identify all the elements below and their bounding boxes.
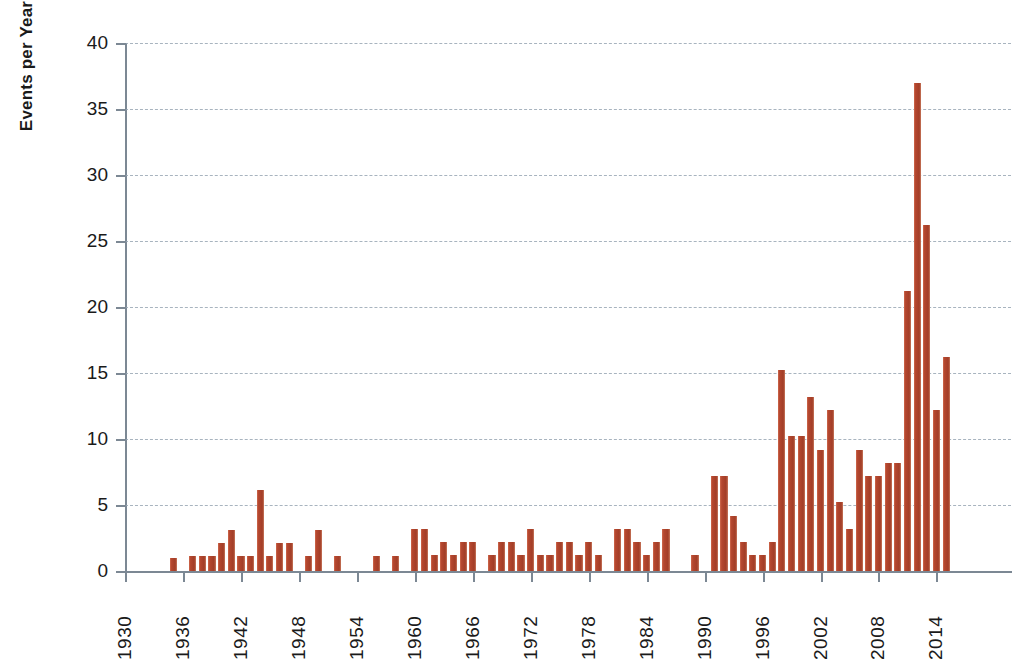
x-tick-mark-1948 [299, 571, 301, 582]
bar-1995 [749, 555, 756, 571]
x-tick-label-1936: 1936 [172, 590, 198, 660]
bar-2015 [943, 357, 950, 571]
x-tick-mark-1978 [589, 571, 591, 582]
bar-1989 [691, 555, 698, 571]
bar-1946 [276, 543, 283, 571]
bar-1945 [266, 556, 273, 571]
bar-1998 [778, 370, 785, 571]
y-tick-label-10: 10 [60, 429, 108, 448]
bar-1956 [373, 556, 380, 571]
bar-1968 [488, 555, 495, 571]
bar-1960 [411, 529, 418, 571]
bar-2013 [923, 225, 930, 571]
bar-1972 [527, 529, 534, 571]
bar-1979 [595, 555, 602, 571]
bar-1942 [237, 556, 244, 571]
y-tick-label-40: 40 [60, 33, 108, 52]
bar-1938 [199, 556, 206, 571]
y-tick-label-15: 15 [60, 363, 108, 382]
bar-1961 [421, 529, 428, 571]
y-tick-label-30: 30 [60, 165, 108, 184]
bar-1963 [440, 542, 447, 571]
x-tick-mark-1984 [647, 571, 649, 582]
y-tick-label-25: 25 [60, 231, 108, 250]
bar-1977 [575, 555, 582, 571]
bar-1969 [498, 542, 505, 571]
bar-2000 [798, 436, 805, 571]
bar-1974 [546, 555, 553, 571]
bar-1991 [711, 476, 718, 571]
bar-1952 [334, 556, 341, 571]
bar-1976 [566, 542, 573, 571]
y-tick-label-0: 0 [60, 561, 108, 580]
bar-2001 [807, 397, 814, 571]
bar-1999 [788, 436, 795, 571]
bar-1943 [247, 556, 254, 571]
bar-1994 [740, 542, 747, 571]
bar-2011 [904, 291, 911, 571]
bar-1965 [460, 542, 467, 571]
bar-1975 [556, 542, 563, 571]
x-tick-mark-1930 [125, 571, 127, 582]
bar-1947 [286, 543, 293, 571]
x-tick-label-1990: 1990 [694, 590, 720, 660]
bar-2008 [875, 476, 882, 571]
bar-1978 [585, 542, 592, 571]
bar-1937 [189, 556, 196, 571]
bar-1935 [170, 558, 177, 571]
x-tick-label-1966: 1966 [462, 590, 488, 660]
x-tick-mark-1942 [241, 571, 243, 582]
x-tick-label-1960: 1960 [404, 590, 430, 660]
bar-2009 [885, 463, 892, 571]
bar-1939 [208, 556, 215, 571]
bar-1993 [730, 516, 737, 571]
x-tick-mark-2008 [878, 571, 880, 582]
bar-1997 [769, 542, 776, 571]
bar-1958 [392, 556, 399, 571]
bar-1941 [228, 530, 235, 571]
x-tick-label-2008: 2008 [867, 590, 893, 660]
x-tick-label-1930: 1930 [114, 590, 140, 660]
bar-1996 [759, 555, 766, 571]
bar-1985 [653, 542, 660, 571]
bar-1950 [315, 530, 322, 571]
bar-1984 [643, 555, 650, 571]
bar-1973 [537, 555, 544, 571]
bar-2004 [836, 502, 843, 571]
bar-1992 [720, 476, 727, 571]
bar-1964 [450, 555, 457, 571]
x-tick-mark-1996 [763, 571, 765, 582]
bar-2010 [894, 463, 901, 571]
bar-2003 [827, 410, 834, 571]
bar-1944 [257, 490, 264, 571]
y-tick-label-20: 20 [60, 297, 108, 316]
x-tick-label-1984: 1984 [636, 590, 662, 660]
bar-1962 [431, 555, 438, 571]
bar-1949 [305, 556, 312, 571]
bar-2006 [856, 450, 863, 571]
x-tick-label-1948: 1948 [288, 590, 314, 660]
x-tick-mark-1972 [531, 571, 533, 582]
y-tick-label-5: 5 [60, 495, 108, 514]
bar-2002 [817, 450, 824, 571]
bar-1970 [508, 542, 515, 571]
x-tick-label-1954: 1954 [346, 590, 372, 660]
bar-1981 [614, 529, 621, 571]
y-axis-title: Events per Year [14, 0, 40, 336]
x-tick-label-2014: 2014 [925, 590, 951, 660]
x-tick-mark-1960 [415, 571, 417, 582]
bar-1966 [469, 542, 476, 571]
x-tick-mark-2014 [936, 571, 938, 582]
bar-1940 [218, 543, 225, 571]
y-tick-label-35: 35 [60, 99, 108, 118]
bar-1971 [517, 555, 524, 571]
chart-figure: Events per Year 0510152025303540 1930193… [0, 0, 1027, 662]
x-tick-label-1972: 1972 [520, 590, 546, 660]
x-tick-mark-1990 [705, 571, 707, 582]
x-tick-label-1978: 1978 [578, 590, 604, 660]
bar-2005 [846, 529, 853, 571]
x-tick-mark-2002 [821, 571, 823, 582]
bar-1983 [633, 542, 640, 571]
x-tick-mark-1966 [473, 571, 475, 582]
x-tick-label-2002: 2002 [810, 590, 836, 660]
